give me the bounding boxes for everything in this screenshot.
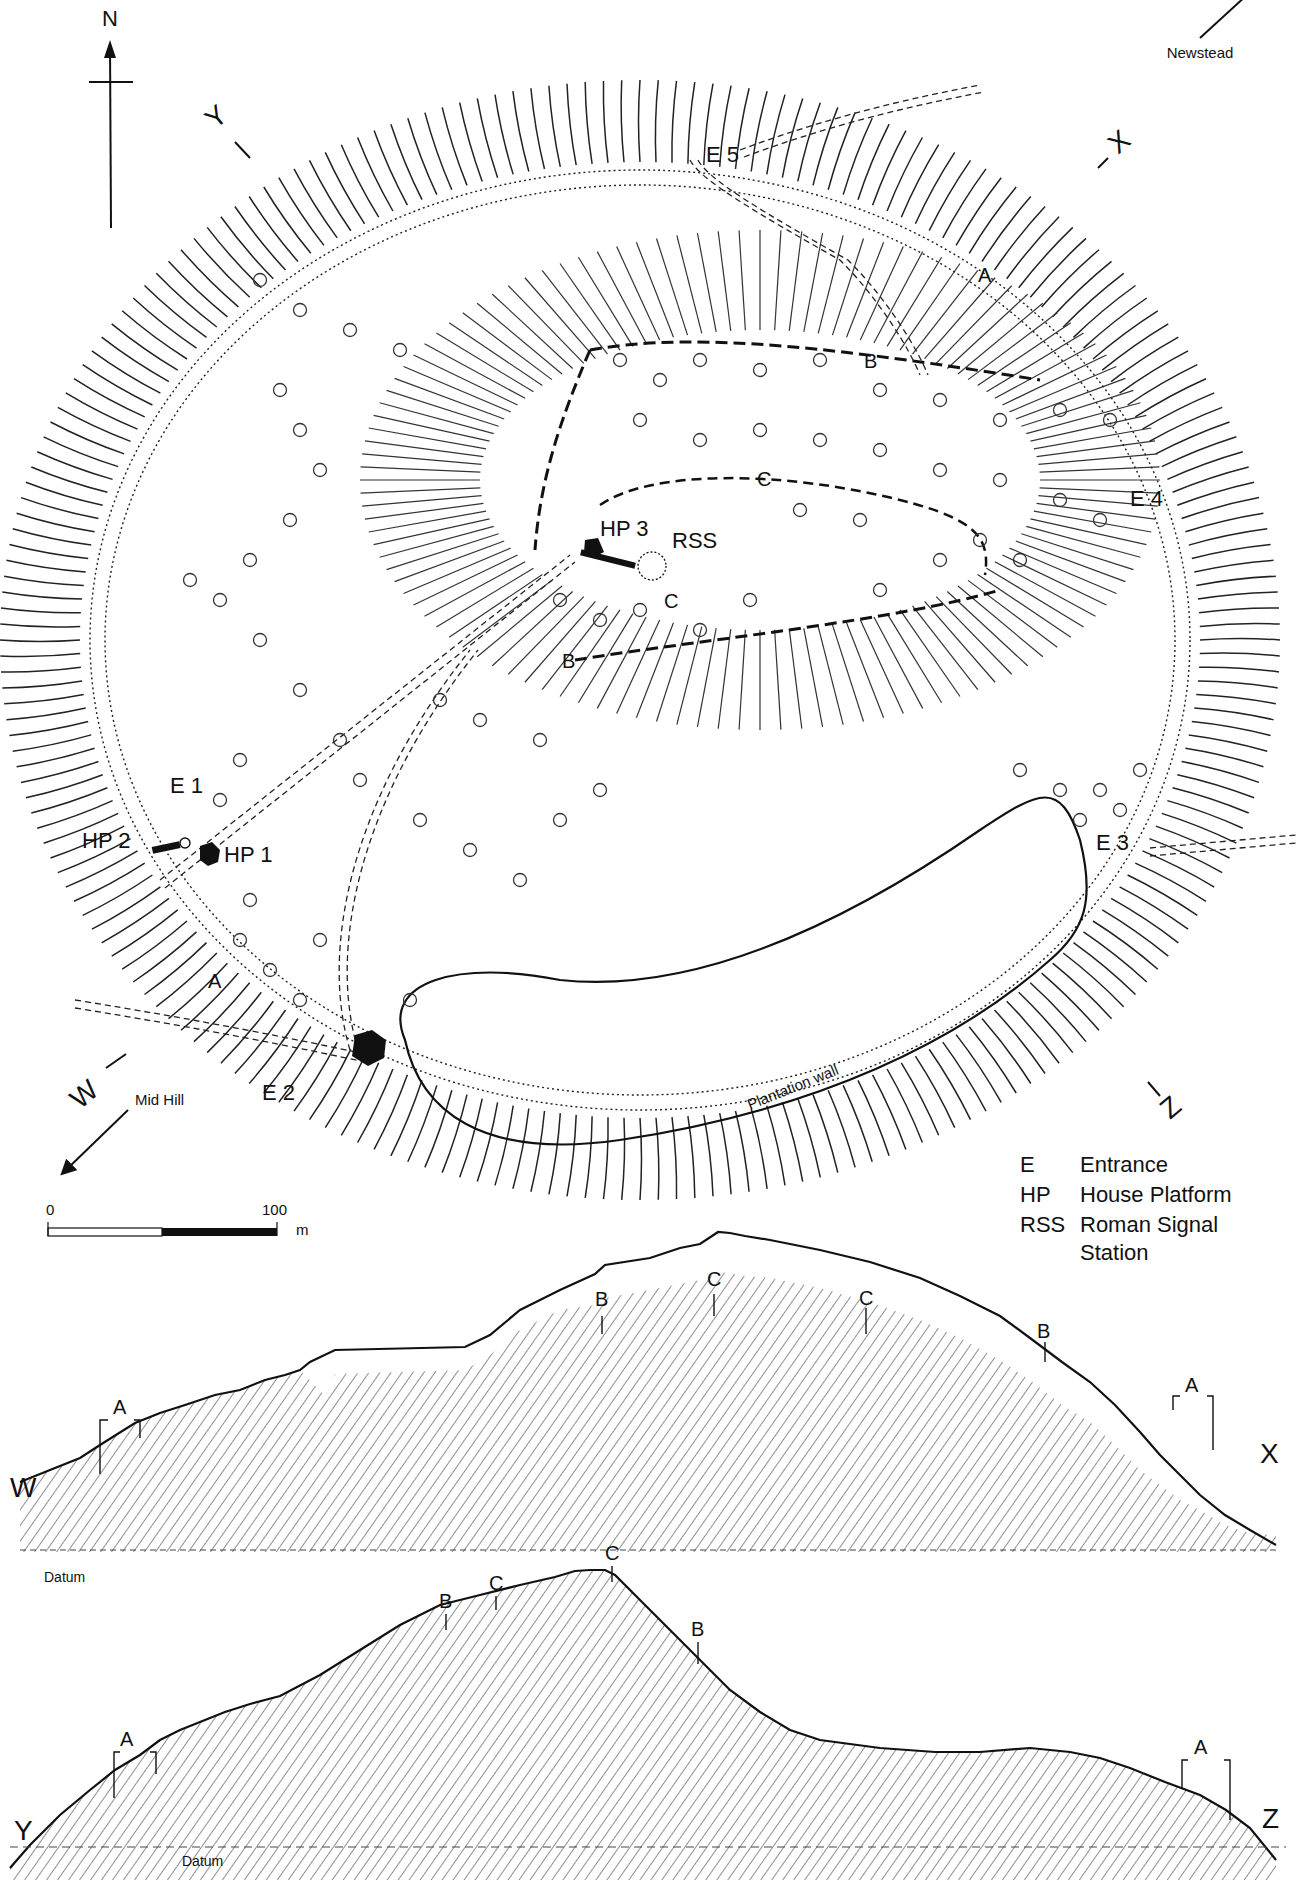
section-x-label: X xyxy=(1260,1438,1279,1469)
section-w-label: W xyxy=(10,1472,37,1503)
hillfort-plan-figure: N Newstead Plantation wall xyxy=(0,0,1296,1880)
north-arrow-icon: N xyxy=(89,6,133,228)
rampart-c-line xyxy=(600,478,986,575)
plantation-wall-label: Plantation wall xyxy=(745,1061,841,1113)
legend-abbr-rss: RSS xyxy=(1020,1212,1065,1237)
section-w-label-plan: W xyxy=(64,1073,105,1114)
wx-marker-b-east: B xyxy=(1037,1320,1050,1342)
outer-slope-hachures xyxy=(80,100,1200,1220)
datum-label-yz: Datum xyxy=(182,1853,223,1869)
yz-marker-c-east: C xyxy=(605,1542,619,1564)
datum-label-wx: Datum xyxy=(44,1569,85,1585)
wx-marker-c-east: C xyxy=(859,1287,873,1309)
newstead-label: Newstead xyxy=(1167,44,1234,61)
entrance-e5-label: E 5 xyxy=(706,142,739,167)
house-platform-hp2-icon xyxy=(152,841,181,854)
section-y-label: Y xyxy=(14,1815,33,1846)
rampart-b-label-south: B xyxy=(562,650,575,672)
rampart-b-west xyxy=(535,350,590,550)
newstead-direction: Newstead xyxy=(1167,0,1248,61)
rampart-c-label-south: C xyxy=(664,590,678,612)
house-platform-hp3-icon xyxy=(580,538,636,569)
legend-meaning-rss: Roman Signal xyxy=(1080,1212,1218,1237)
legend-abbr-e: E xyxy=(1020,1152,1035,1177)
entrance-e2-label: E 2 xyxy=(262,1080,295,1105)
scale-unit-label: m xyxy=(296,1221,309,1238)
legend-meaning-hp: House Platform xyxy=(1080,1182,1232,1207)
wx-marker-b-west: B xyxy=(595,1288,608,1310)
legend-meaning-rss-line2: Station xyxy=(1080,1240,1149,1265)
rss-label: RSS xyxy=(672,528,717,553)
plantation-wall: Plantation wall xyxy=(400,798,1086,1145)
legend: E Entrance HP House Platform RSS Roman S… xyxy=(1020,1152,1232,1265)
hp2-label: HP 2 xyxy=(82,828,131,853)
section-markers-plan: Y X W Z xyxy=(64,99,1187,1125)
yz-marker-b-east: B xyxy=(691,1618,704,1640)
yz-marker-a-east: A xyxy=(1194,1736,1208,1758)
entrance-e4-label: E 4 xyxy=(1130,486,1163,511)
yz-marker-c-west: C xyxy=(489,1572,503,1594)
section-w-x: W X Datum A B C C B A xyxy=(10,1232,1279,1585)
mid-hill-label: Mid Hill xyxy=(135,1091,184,1108)
legend-meaning-e: Entrance xyxy=(1080,1152,1168,1177)
hexagon-marker-icon xyxy=(352,1030,386,1066)
wx-marker-c-west: C xyxy=(707,1268,721,1290)
hachure-ring xyxy=(0,80,1280,1200)
wx-marker-a-west: A xyxy=(113,1396,127,1418)
yz-marker-b-west: B xyxy=(439,1590,452,1612)
north-label: N xyxy=(102,6,118,31)
entrance-e1-label: E 1 xyxy=(170,773,203,798)
section-y-label-plan: Y xyxy=(199,99,233,135)
hp3-label: HP 3 xyxy=(600,516,649,541)
scale-end-label: 100 xyxy=(262,1201,287,1218)
scale-bar: 0 100 m xyxy=(46,1201,309,1238)
scale-start-label: 0 xyxy=(46,1201,54,1218)
hut-circles xyxy=(184,274,1147,1007)
hp1-label: HP 1 xyxy=(224,842,273,867)
section-y-z: Y Z Datum A B C C B A xyxy=(10,1542,1286,1880)
section-z-label: Z xyxy=(1262,1803,1279,1834)
rampart-c-label-north: C xyxy=(757,468,771,490)
rampart-a-outline xyxy=(90,170,1190,1110)
entrance-e3-label: E 3 xyxy=(1096,830,1129,855)
roman-signal-station-icon xyxy=(638,552,666,580)
wx-marker-a-east: A xyxy=(1185,1374,1199,1396)
house-platform-hp1-icon xyxy=(200,842,220,866)
rampart-b-label-north: B xyxy=(864,350,877,372)
legend-abbr-hp: HP xyxy=(1020,1182,1051,1207)
yz-marker-a-west: A xyxy=(120,1728,134,1750)
rampart-a-label-south: A xyxy=(208,970,222,992)
rampart-a-label-north: A xyxy=(978,264,992,286)
section-x-label-plan: X xyxy=(1102,124,1136,160)
